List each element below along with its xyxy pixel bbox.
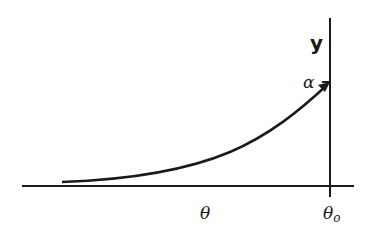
theta0-label: θo	[323, 203, 340, 225]
theta-label: θ	[200, 203, 210, 223]
y-axis-label: y	[310, 31, 323, 55]
diagram-canvas: y α θ θo	[0, 0, 374, 238]
curve	[62, 86, 326, 182]
alpha-label: α	[303, 72, 315, 92]
